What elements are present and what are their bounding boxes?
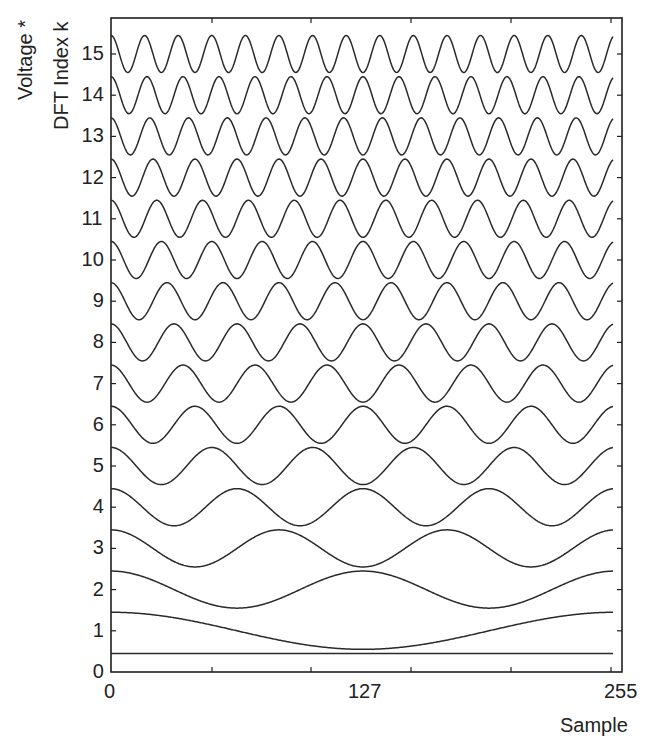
x-tick-label-127: 127 — [348, 680, 381, 703]
curve-k-5 — [111, 447, 613, 484]
curve-k-10 — [111, 241, 613, 278]
curve-k-2 — [111, 571, 613, 608]
curve-k-8 — [111, 324, 613, 361]
curve-k-13 — [111, 118, 613, 155]
plot-frame — [111, 18, 622, 672]
y-tick-label-4: 4 — [93, 495, 104, 518]
plot-border — [111, 18, 622, 672]
y-axis-label-voltage: Voltage * — [14, 20, 37, 100]
y-tick-label-13: 13 — [82, 124, 104, 147]
y-tick-label-7: 7 — [93, 372, 104, 395]
y-tick-label-6: 6 — [93, 413, 104, 436]
curve-k-12 — [111, 159, 613, 196]
basis-curves — [111, 35, 613, 653]
curve-k-6 — [111, 406, 613, 443]
y-tick-label-14: 14 — [82, 83, 104, 106]
y-tick-label-15: 15 — [82, 42, 104, 65]
axis-ticks — [111, 18, 622, 672]
y-tick-label-11: 11 — [82, 207, 103, 230]
curve-k-4 — [111, 489, 613, 526]
y-tick-label-3: 3 — [93, 536, 104, 559]
curve-k-15 — [111, 35, 613, 72]
x-axis-label: Sample — [560, 714, 628, 737]
curve-k-9 — [111, 283, 613, 320]
y-tick-label-2: 2 — [93, 578, 104, 601]
y-tick-label-1: 1 — [93, 619, 104, 642]
y-tick-label-8: 8 — [93, 330, 104, 353]
y-tick-label-12: 12 — [82, 166, 104, 189]
curve-k-7 — [111, 365, 613, 402]
y-tick-label-5: 5 — [93, 454, 104, 477]
x-tick-label-0: 0 — [104, 680, 115, 703]
y-tick-label-10: 10 — [82, 248, 104, 271]
x-tick-label-255: 255 — [604, 680, 637, 703]
curve-k-14 — [111, 77, 613, 114]
y-axis-label-dft-index: DFT Index k — [50, 21, 73, 130]
curve-k-1 — [111, 612, 613, 649]
y-tick-label-0: 0 — [93, 660, 104, 683]
curve-k-11 — [111, 200, 613, 237]
y-tick-label-9: 9 — [93, 289, 104, 312]
curve-k-3 — [111, 530, 613, 567]
